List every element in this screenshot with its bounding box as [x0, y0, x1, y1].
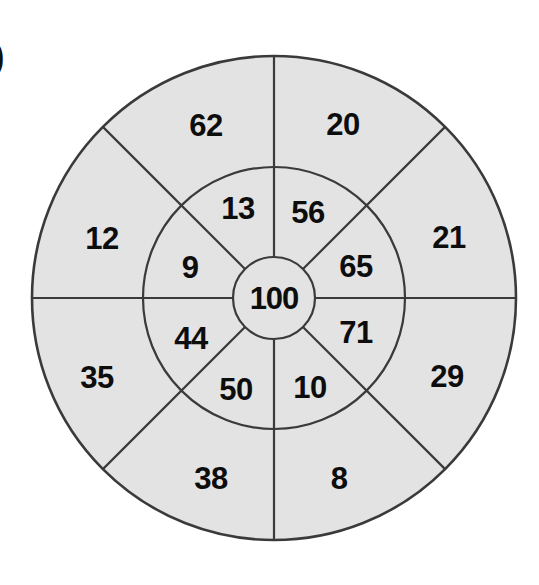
- middle-ring-value-label: 50: [219, 372, 252, 407]
- middle-ring-value-label: 56: [291, 195, 325, 230]
- middle-ring-value-label: 65: [339, 249, 373, 284]
- center-value-label: 100: [250, 281, 299, 316]
- worksheet-page: 100566571105044913202129838351262 ): [0, 0, 539, 585]
- target-wheel-diagram: 100566571105044913202129838351262 ): [0, 0, 539, 585]
- outer-ring-value-label: 62: [189, 108, 222, 143]
- outer-ring-value-label: 21: [432, 220, 466, 255]
- outer-ring-value-label: 35: [80, 360, 114, 395]
- outer-ring-value-label: 29: [430, 359, 464, 394]
- outer-ring-value-label: 8: [331, 461, 348, 496]
- list-item-marker: ): [0, 31, 5, 80]
- outer-ring-value-label: 12: [85, 221, 118, 256]
- middle-ring-value-label: 10: [293, 370, 326, 405]
- outer-ring-value-label: 20: [326, 107, 359, 142]
- middle-ring-value-label: 44: [174, 321, 209, 356]
- outer-ring-value-label: 38: [194, 461, 228, 496]
- middle-ring-value-label: 71: [339, 315, 373, 350]
- middle-ring-value-label: 13: [221, 191, 255, 226]
- middle-ring-value-label: 9: [182, 250, 199, 285]
